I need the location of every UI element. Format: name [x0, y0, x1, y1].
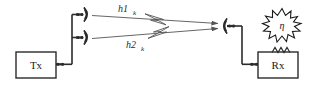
- tx-connector-dot-2: [61, 63, 64, 66]
- tx-feed-connector: [56, 63, 64, 66]
- mimo-channel-diagram: Tx: [0, 0, 310, 89]
- diagram-canvas: Tx: [0, 0, 310, 89]
- tx-block: Tx: [16, 52, 56, 78]
- tx-antenna-1-dish-inner: [85, 10, 87, 19]
- noise-source: η: [263, 9, 302, 43]
- channel-label-h2-base: h2: [126, 39, 136, 50]
- rx-antenna-dish-inner: [225, 21, 227, 31]
- rx-connector-dot-1: [251, 63, 254, 66]
- tx-antenna-1-dot-2: [81, 13, 84, 16]
- rx-antenna: [224, 19, 235, 34]
- channel-label-h2: h2 k: [126, 39, 145, 53]
- tx-antenna-2-dot-1: [77, 36, 80, 39]
- rx-label: Rx: [272, 59, 285, 71]
- rx-feed-connector: [250, 63, 258, 66]
- scatter-bolt-h2: [148, 27, 169, 39]
- rx-antenna-dot-2: [232, 25, 235, 28]
- channel-label-h1: h1 k: [118, 3, 137, 17]
- tx-antenna-2: [76, 31, 87, 45]
- tx-antenna-1-dot-1: [77, 13, 80, 16]
- tx-antenna-1: [76, 8, 87, 22]
- channel-label-h2-subscript: k: [141, 45, 145, 53]
- rx-antenna-dot-1: [228, 25, 231, 28]
- tx-connector-dot-1: [57, 63, 60, 66]
- tx-antenna-2-dot-2: [81, 36, 84, 39]
- channel-label-h1-subscript: k: [133, 9, 137, 17]
- tx-label: Tx: [30, 59, 43, 71]
- rx-feed-lines: [235, 26, 250, 64]
- tx-antenna-2-dish-inner: [85, 33, 87, 42]
- channel-path-h2: [92, 29, 218, 39]
- noise-symbol-label: η: [280, 20, 285, 31]
- tx-feed-lines: [64, 15, 78, 65]
- channel-label-h1-base: h1: [118, 3, 128, 14]
- rx-block: Rx: [258, 52, 298, 78]
